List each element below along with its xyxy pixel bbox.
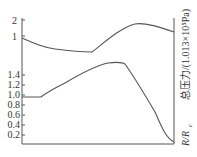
lower-tick-label: 0.2	[8, 129, 21, 140]
upper-curve	[22, 24, 174, 52]
chart: 2 1 1.4 1.2 1.0 0.8 0.6 0.4 0.2 总压力/(1.0…	[0, 0, 197, 157]
y-axis-label: 总压力/(1.013×10⁵Pa)	[179, 9, 192, 100]
upper-tick-label: 1	[12, 31, 17, 42]
lower-curve	[22, 62, 174, 142]
upper-tick-label: 2	[12, 15, 17, 26]
svg-text:R/R: R/R	[180, 131, 191, 147]
x-axis-label: R/R c	[180, 123, 194, 147]
svg-text:c: c	[186, 123, 194, 127]
